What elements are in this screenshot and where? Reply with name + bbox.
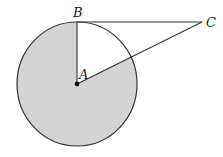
label-a: A (78, 67, 88, 82)
center-point-a (75, 82, 80, 87)
label-c: C (206, 15, 216, 30)
segment-ac (77, 22, 202, 84)
label-b: B (72, 5, 83, 20)
geometry-diagram: B C A (0, 0, 223, 157)
